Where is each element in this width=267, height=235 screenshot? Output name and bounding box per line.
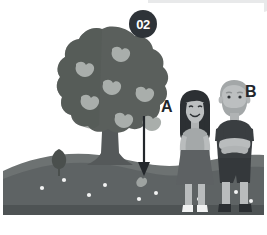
canopy-shading xyxy=(57,28,102,128)
label-person-b: B xyxy=(245,84,257,100)
illustration-stage: A B 02 xyxy=(0,0,267,235)
apple-on-ground xyxy=(135,173,149,185)
arrow-svg xyxy=(133,115,157,179)
step-number-badge: 02 xyxy=(129,10,157,38)
label-person-a: A xyxy=(161,99,173,115)
fallen-apple-svg xyxy=(135,175,149,187)
illustration-panel: A B xyxy=(3,3,264,229)
downward-falling-arrow xyxy=(133,115,157,179)
